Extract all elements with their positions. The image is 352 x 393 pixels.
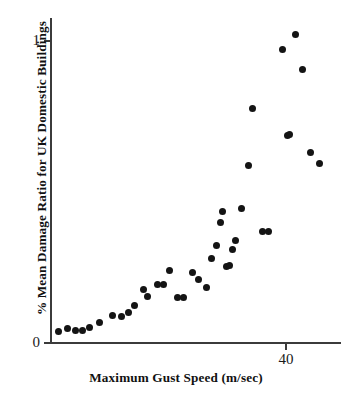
data-point	[229, 246, 236, 253]
x-axis-line	[50, 342, 341, 344]
data-point	[72, 327, 79, 334]
data-point	[79, 327, 86, 334]
data-point	[219, 208, 226, 215]
y-tick-label-0: 0	[14, 335, 40, 350]
data-point	[55, 328, 62, 335]
data-point	[307, 149, 314, 156]
data-point	[125, 309, 132, 316]
x-tick-label-40: 40	[269, 352, 303, 367]
data-point	[166, 267, 173, 274]
data-point	[265, 228, 272, 235]
scatter-plot-figure: 1 0 40 % Mean Damage Ratio for UK Domest…	[0, 0, 352, 393]
data-point	[118, 313, 125, 320]
data-point	[64, 325, 71, 332]
data-point	[208, 255, 215, 262]
data-point	[279, 46, 286, 53]
data-point	[226, 262, 233, 269]
data-point	[217, 219, 224, 226]
data-point	[180, 294, 187, 301]
data-point	[232, 237, 239, 244]
data-point	[316, 160, 323, 167]
y-axis-title: % Mean Damage Ratio for UK Domestic Buil…	[34, 18, 50, 318]
data-point	[245, 162, 252, 169]
data-point	[86, 324, 93, 331]
data-point	[203, 284, 210, 291]
data-point	[189, 269, 196, 276]
x-axis-title: Maximum Gust Speed (m/sec)	[0, 370, 352, 386]
data-point	[213, 242, 220, 249]
data-point	[249, 105, 256, 112]
data-point	[299, 66, 306, 73]
data-point	[195, 276, 202, 283]
data-point	[144, 293, 151, 300]
data-point	[96, 319, 103, 326]
data-point	[238, 205, 245, 212]
data-point	[160, 281, 167, 288]
x-tick-mark-40	[285, 343, 287, 350]
y-tick-mark-0	[44, 342, 51, 344]
y-axis-line	[50, 18, 52, 344]
data-point	[140, 286, 147, 293]
data-point	[109, 312, 116, 319]
data-point	[292, 31, 299, 38]
data-point	[286, 131, 293, 138]
data-point	[131, 302, 138, 309]
